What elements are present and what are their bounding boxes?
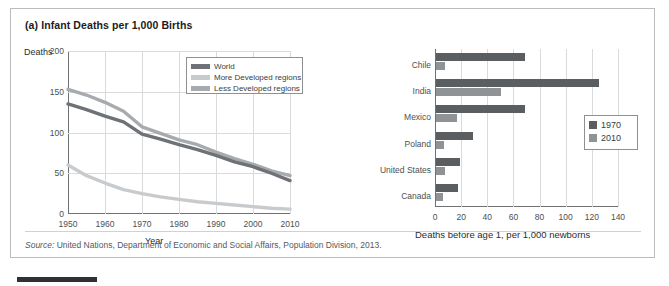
category-label: Chile xyxy=(412,60,435,70)
line-series-world xyxy=(68,104,290,181)
x-tick-label: 2000 xyxy=(236,219,270,229)
gridline-vertical xyxy=(487,49,488,207)
bar-united-states-1970 xyxy=(436,158,460,166)
y-tick-label: 50 xyxy=(38,168,64,178)
category-label: Mexico xyxy=(404,112,435,122)
y-tick-label: 100 xyxy=(38,128,64,138)
x-tick-label: 1960 xyxy=(88,219,122,229)
legend-swatch-icon xyxy=(191,86,210,91)
legend-label: Less Developed regions xyxy=(214,84,300,93)
bar-canada-2010 xyxy=(436,193,443,201)
x-tick-label: 80 xyxy=(528,212,552,222)
chart-a-legend: WorldMore Developed regionsLess Develope… xyxy=(186,57,303,94)
legend-item: World xyxy=(191,61,298,71)
bottom-rule xyxy=(17,277,97,282)
source-note-text: United Nations, Department of Economic a… xyxy=(54,240,381,250)
legend-item: 2010 xyxy=(589,132,633,144)
chart-b-infant-mortality-rates: (b) Infant Mortality Rates: 1970 and 201… xyxy=(351,9,669,259)
chart-a-title: (a) Infant Deaths per 1,000 Births xyxy=(25,19,192,31)
bar-canada-1970 xyxy=(436,184,458,192)
category-label: United States xyxy=(380,165,435,175)
legend-label: 2010 xyxy=(601,133,621,143)
bar-mexico-1970 xyxy=(436,105,525,113)
x-tick-label: 1970 xyxy=(125,219,159,229)
legend-label: More Developed regions xyxy=(214,73,301,82)
bar-mexico-2010 xyxy=(436,114,457,122)
x-tick-label: 0 xyxy=(423,212,447,222)
legend-label: World xyxy=(214,62,235,71)
legend-item: Less Developed regions xyxy=(191,83,298,93)
source-note: Source: United Nations, Department of Ec… xyxy=(25,240,382,250)
legend-swatch-icon xyxy=(191,64,210,69)
line-series-more-developed-regions xyxy=(68,165,290,209)
chart-b-legend: 19702010 xyxy=(584,115,638,150)
x-tick-label: 1990 xyxy=(199,219,233,229)
bar-india-2010 xyxy=(436,88,501,96)
gridline-vertical xyxy=(461,49,462,207)
gridline-vertical xyxy=(513,49,514,207)
gridline-vertical xyxy=(540,49,541,207)
x-tick-label: 1980 xyxy=(162,219,196,229)
legend-swatch-icon xyxy=(191,75,210,80)
x-tick-label: 60 xyxy=(501,212,525,222)
legend-swatch-icon xyxy=(589,121,597,129)
bar-poland-2010 xyxy=(436,141,444,149)
bar-chile-1970 xyxy=(436,53,525,61)
x-tick-label: 1950 xyxy=(51,219,85,229)
source-divider xyxy=(25,231,641,232)
chart-b-y-axis-line xyxy=(435,49,436,207)
source-note-prefix: Source: xyxy=(25,240,54,250)
legend-label: 1970 xyxy=(601,120,621,130)
gridline-vertical xyxy=(566,49,567,207)
y-tick-label: 0 xyxy=(38,209,64,219)
figure-panel: (a) Infant Deaths per 1,000 Births Death… xyxy=(10,8,655,258)
bar-india-1970 xyxy=(436,79,599,87)
chart-a-infant-deaths: (a) Infant Deaths per 1,000 Births Death… xyxy=(11,9,351,259)
x-tick-label: 2010 xyxy=(273,219,307,229)
category-label: Poland xyxy=(405,139,435,149)
bar-chile-2010 xyxy=(436,62,445,70)
legend-item: 1970 xyxy=(589,119,633,131)
x-tick-label: 100 xyxy=(554,212,578,222)
x-tick-label: 20 xyxy=(449,212,473,222)
y-tick-label: 150 xyxy=(38,87,64,97)
legend-swatch-icon xyxy=(589,134,597,142)
chart-b-x-axis-line xyxy=(435,206,618,207)
line-series-less-developed-regions xyxy=(68,89,290,175)
bar-united-states-2010 xyxy=(436,167,445,175)
category-label: India xyxy=(413,86,435,96)
category-label: Canada xyxy=(401,191,435,201)
legend-item: More Developed regions xyxy=(191,72,298,82)
x-tick-label: 40 xyxy=(475,212,499,222)
bar-poland-1970 xyxy=(436,132,473,140)
x-tick-label: 140 xyxy=(606,212,630,222)
x-tick-label: 120 xyxy=(580,212,604,222)
y-tick-label: 200 xyxy=(38,46,64,56)
